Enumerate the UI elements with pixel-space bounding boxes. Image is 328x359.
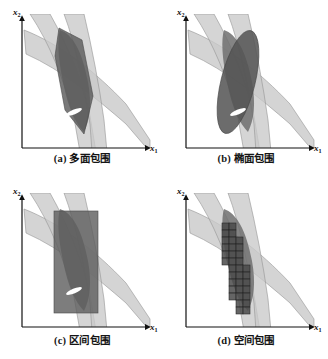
subpaving-cell (236, 244, 243, 251)
subpaving-cell (236, 307, 243, 314)
subpaving-cell (229, 258, 236, 265)
subpaving-cell (229, 293, 236, 300)
subpaving-cell (243, 279, 250, 286)
panel-b: x2 x1 (b) 椭面包围 (164, 0, 328, 179)
subpaving-cell (243, 293, 250, 300)
panel-d-y-axis-label: x2 (176, 186, 185, 197)
panel-a-caption: (a) 多面包围 (0, 150, 164, 165)
panel-c: x2 x1 (c) 区间包围 (0, 179, 164, 358)
panel-b-bands (188, 14, 314, 152)
subpaving-cell (222, 223, 229, 230)
panel-c-caption: (c) 区间包围 (0, 332, 164, 347)
subpaving-cell (222, 251, 229, 258)
subpaving-cell (243, 307, 250, 314)
subpaving-cell (229, 279, 236, 286)
panel-a: x2 x1 (a) 多面包围 (0, 0, 164, 179)
subpaving-cell (222, 237, 229, 244)
panel-b-caption: (b) 椭面包围 (164, 150, 328, 165)
subpaving-cell (243, 265, 250, 272)
subpaving-cell (229, 223, 236, 230)
panel-d: x2 x1 (d) 空间包围 (164, 179, 328, 358)
panel-a-y-axis-label: x2 (12, 7, 21, 18)
subpaving-cell (236, 251, 243, 258)
subpaving-cell (222, 244, 229, 251)
subpaving-cell (229, 237, 236, 244)
subpaving-cell (229, 244, 236, 251)
subpaving-cell (229, 286, 236, 293)
subpaving-cell (222, 258, 229, 265)
subpaving-cell (229, 251, 236, 258)
panel-c-y-axis-label: x2 (12, 186, 21, 197)
subpaving-cell (236, 286, 243, 293)
panel-d-caption: (d) 空间包围 (164, 332, 328, 347)
subpaving-cell (236, 272, 243, 279)
enclosure-interval-box (54, 211, 98, 313)
panel-d-bands (188, 193, 314, 331)
panel-c-bands (24, 193, 150, 331)
subpaving-cell (243, 272, 250, 279)
panel-d-plot: x2 x1 (164, 179, 328, 334)
panel-b-plot: x2 x1 (164, 0, 328, 155)
figure-four-panel-enclosures: x2 x1 (a) 多面包围 (0, 0, 328, 359)
subpaving-cell (243, 300, 250, 307)
subpaving-cell (236, 279, 243, 286)
subpaving-cell (229, 230, 236, 237)
subpaving-cell (229, 265, 236, 272)
panel-b-y-axis-label: x2 (176, 7, 185, 18)
panel-a-bands (24, 14, 150, 152)
subpaving-cell (222, 230, 229, 237)
subpaving-cell (229, 272, 236, 279)
subpaving-cell (236, 300, 243, 307)
subpaving-cell (243, 286, 250, 293)
subpaving-cell (236, 293, 243, 300)
subpaving-cell (236, 258, 243, 265)
panel-a-plot: x2 x1 (0, 0, 164, 155)
panel-c-plot: x2 x1 (0, 179, 164, 334)
subpaving-cell (236, 237, 243, 244)
subpaving-cell (236, 265, 243, 272)
